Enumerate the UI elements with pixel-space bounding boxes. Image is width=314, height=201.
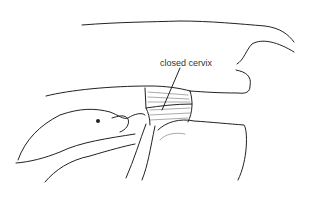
cervix-illustration: closed cervix	[0, 0, 314, 201]
lower-left-line	[126, 124, 146, 178]
closed-cervix-label: closed cervix	[160, 58, 212, 68]
cervix-divider	[146, 104, 192, 108]
right-block	[190, 70, 250, 93]
lower-mid-line	[142, 126, 155, 180]
knuckle-mark	[96, 119, 100, 123]
forearm	[45, 144, 135, 182]
illustration-drawing	[0, 0, 314, 201]
upper-contour	[82, 21, 294, 42]
label-pointer	[162, 68, 180, 110]
lower-block	[158, 120, 246, 180]
lower-shading	[160, 133, 185, 140]
right-curve	[237, 41, 294, 64]
